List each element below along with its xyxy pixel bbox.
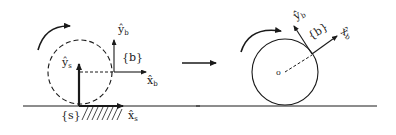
body-x-label-right: x̂b — [338, 24, 355, 42]
radius-dashed-right — [285, 55, 312, 72]
left-panel: ŷs {s} x̂s ŷb {b} x̂b — [23, 23, 200, 123]
space-x-label: x̂s — [128, 109, 138, 123]
rotation-arrow-icon — [38, 26, 70, 50]
body-frame-label-right: {b} — [306, 20, 331, 42]
body-frame-label-left: {b} — [122, 51, 143, 64]
body-x-label-left: x̂b — [147, 74, 158, 88]
ground-hatching — [82, 107, 122, 120]
body-y-label-left: ŷb — [117, 23, 129, 37]
body-y-label-right: ŷb — [290, 6, 308, 24]
rolling-disc-diagram: ŷs {s} x̂s ŷb {b} x̂b o ŷb {b} — [0, 0, 396, 135]
right-panel: o ŷb {b} x̂b — [196, 6, 377, 106]
center-label: o — [276, 68, 281, 77]
space-frame-label: {s} — [61, 109, 81, 122]
space-y-label: ŷs — [61, 56, 72, 70]
